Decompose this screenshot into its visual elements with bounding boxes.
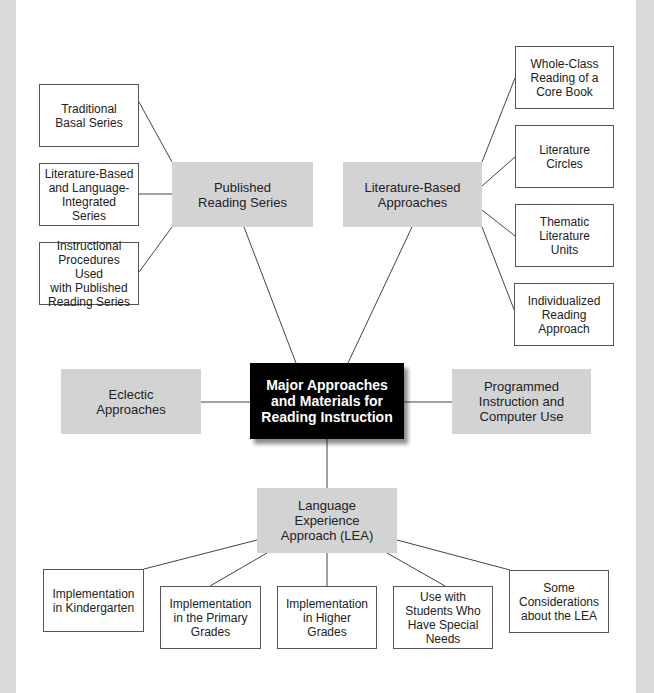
leaf-implementation-primary-grades: Implementation in the Primary Grades (160, 586, 261, 649)
leaf-implementation-kindergarten: Implementation in Kindergarten (43, 569, 144, 632)
leaf-individualized-reading-approach: Individualized Reading Approach (514, 283, 614, 346)
branch-label: Programmed Instruction and Computer Use (479, 379, 564, 424)
leaf-label: Individualized Reading Approach (528, 294, 601, 336)
branch-literature-based-approaches: Literature-Based Approaches (343, 162, 482, 227)
leaf-students-special-needs: Use with Students Who Have Special Needs (393, 586, 493, 649)
leaf-whole-class-reading: Whole-Class Reading of a Core Book (515, 46, 614, 109)
branch-label: Eclectic Approaches (96, 387, 165, 417)
branch-language-experience-approach: Language Experience Approach (LEA) (257, 488, 397, 553)
leaf-label: Implementation in Higher Grades (286, 597, 368, 639)
leaf-label: Literature-Based and Language- Integrate… (44, 167, 134, 223)
leaf-literature-circles: Literature Circles (515, 125, 614, 188)
leaf-label: Whole-Class Reading of a Core Book (530, 57, 598, 99)
leaf-implementation-higher-grades: Implementation in Higher Grades (277, 586, 377, 649)
leaf-considerations-about-lea: Some Considerations about the LEA (509, 570, 609, 633)
branch-eclectic-approaches: Eclectic Approaches (61, 369, 201, 434)
branch-label: Published Reading Series (198, 180, 287, 210)
leaf-label: Implementation in Kindergarten (52, 587, 134, 615)
branch-programmed-instruction: Programmed Instruction and Computer Use (452, 369, 591, 434)
leaf-thematic-literature-units: Thematic Literature Units (515, 204, 614, 267)
leaf-label: Use with Students Who Have Special Needs (405, 590, 480, 646)
leaf-traditional-basal-series: Traditional Basal Series (39, 84, 139, 147)
branch-label: Literature-Based Approaches (364, 180, 460, 210)
central-topic: Major Approaches and Materials for Readi… (250, 363, 404, 439)
central-label: Major Approaches and Materials for Readi… (261, 377, 392, 425)
branch-published-reading-series: Published Reading Series (172, 162, 313, 227)
branch-label: Language Experience Approach (LEA) (281, 498, 374, 543)
leaf-label: Literature Circles (539, 143, 590, 171)
leaf-literature-based-language-integrated-series: Literature-Based and Language- Integrate… (39, 163, 139, 226)
leaf-label: Traditional Basal Series (55, 102, 122, 130)
leaf-label: Thematic Literature Units (539, 215, 590, 257)
leaf-label: Instructional Procedures Used with Publi… (44, 239, 134, 309)
leaf-label: Implementation in the Primary Grades (169, 597, 251, 639)
leaf-instructional-procedures: Instructional Procedures Used with Publi… (39, 242, 139, 305)
leaf-label: Some Considerations about the LEA (519, 581, 599, 623)
